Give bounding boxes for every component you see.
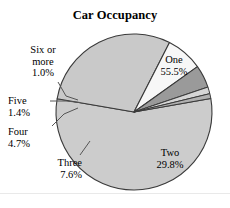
pie-label-four-name: Four	[8, 126, 62, 138]
pie-label-two-name: Two	[142, 147, 198, 159]
pie-label-one-value: 55.5%	[146, 66, 202, 78]
baseline-rule	[0, 193, 230, 194]
pie-label-six-or-more-value: 1.0%	[12, 67, 74, 79]
pie-label-two: Two 29.8%	[142, 147, 198, 170]
pie-chart-figure: Car Occupancy One 55.5% Two 29.8% Three …	[0, 0, 230, 208]
pie-label-one-name: One	[146, 54, 202, 66]
pie-label-three-value: 7.6%	[22, 169, 82, 181]
pie-label-five-name: Five	[8, 95, 56, 107]
pie-label-three-name: Three	[22, 157, 82, 169]
pie-label-three: Three 7.6%	[22, 157, 82, 180]
pie-label-six-or-more: Six or more 1.0%	[12, 44, 74, 79]
pie-label-six-or-more-name-line1: Six or	[12, 44, 74, 56]
pie-label-two-value: 29.8%	[142, 159, 198, 171]
pie-label-five: Five 1.4%	[8, 95, 56, 118]
pie-label-six-or-more-name-line2: more	[12, 56, 74, 68]
pie-label-five-value: 1.4%	[8, 107, 56, 119]
pie-label-four-value: 4.7%	[8, 138, 62, 150]
pie-label-one: One 55.5%	[146, 54, 202, 77]
pie-label-four: Four 4.7%	[8, 126, 62, 149]
